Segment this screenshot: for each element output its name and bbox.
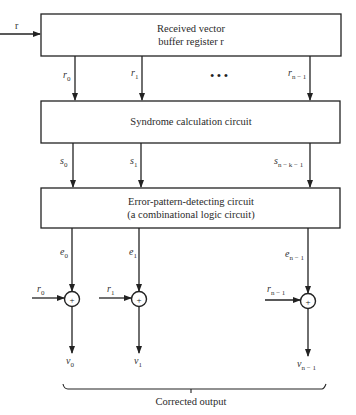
label-v1: v1 — [134, 355, 142, 369]
syndrome-title: Syndrome calculation circuit — [130, 116, 251, 127]
output-brace: Corrected output — [63, 384, 326, 407]
error-title-line2: (a combinational logic circuit) — [127, 209, 255, 221]
buffer-title-line2: buffer register r — [158, 36, 224, 47]
label-e1: e1 — [129, 246, 137, 260]
label-adder-r1: r1 — [107, 283, 115, 297]
buffer-title-line1: Received vector — [157, 23, 225, 34]
label-adder-rn-1: rn − 1 — [267, 283, 286, 297]
adder-0: + r0 v0 — [32, 283, 80, 369]
buffer-output-arrows: r0 r1 rn − 1 • • • — [63, 56, 310, 100]
label-r1: r1 — [131, 67, 139, 81]
label-adder-r0: r0 — [37, 283, 45, 297]
buffer-register-block: Received vector buffer register r — [41, 14, 341, 56]
corrected-output-label: Corrected output — [156, 396, 227, 407]
svg-text:+: + — [305, 297, 310, 307]
error-pattern-block: Error-pattern-detecting circuit (a combi… — [41, 188, 340, 228]
input-arrow: r — [0, 20, 40, 34]
adder-1: + r1 v1 — [99, 283, 147, 369]
ellipsis: • • • — [210, 69, 228, 81]
label-vn-1: vn − 1 — [297, 358, 316, 372]
syndrome-output-arrows: s0 s1 sn − k − 1 — [60, 143, 310, 187]
label-sn-k-1: sn − k − 1 — [274, 155, 304, 169]
label-s0: s0 — [60, 155, 68, 169]
label-en-1: en − 1 — [285, 248, 304, 262]
adder-n-1: + rn − 1 vn − 1 — [265, 283, 316, 372]
label-rn-1: rn − 1 — [288, 67, 307, 81]
decoder-diagram: r Received vector buffer register r r0 r… — [0, 0, 356, 415]
label-s1: s1 — [130, 155, 138, 169]
svg-text:+: + — [69, 295, 74, 305]
svg-text:+: + — [136, 295, 141, 305]
label-v0: v0 — [66, 355, 74, 369]
syndrome-block: Syndrome calculation circuit — [41, 101, 340, 143]
label-e0: e0 — [60, 246, 68, 260]
label-r0: r0 — [63, 69, 71, 83]
error-title-line1: Error-pattern-detecting circuit — [128, 196, 254, 207]
input-label: r — [15, 20, 19, 31]
